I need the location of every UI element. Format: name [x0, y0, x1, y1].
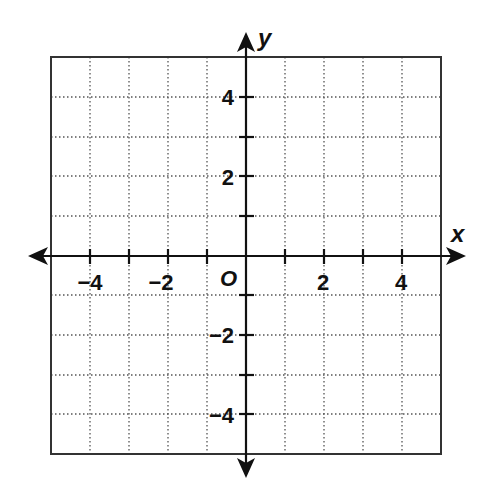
- coordinate-plane: x y O −4 −2 2 4 4 2 −2 −4: [0, 0, 498, 499]
- x-tick-label: −4: [77, 270, 103, 295]
- y-tick-label: 4: [222, 85, 235, 110]
- y-tick-label: 2: [222, 165, 234, 190]
- x-axis-label: x: [449, 220, 466, 247]
- x-tick-label: 2: [317, 270, 329, 295]
- x-tick-label: −2: [148, 270, 173, 295]
- y-tick-label: −2: [209, 323, 234, 348]
- y-tick-label: −4: [209, 403, 235, 428]
- y-axis-label: y: [257, 24, 273, 51]
- origin-label: O: [220, 266, 237, 291]
- x-tick-label: 4: [395, 270, 408, 295]
